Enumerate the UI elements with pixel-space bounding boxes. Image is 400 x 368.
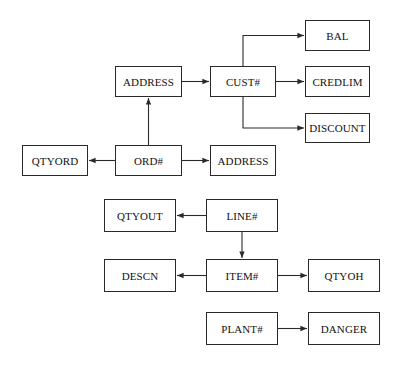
node-label: ORD# (134, 155, 163, 167)
node-label: ITEM# (226, 270, 259, 282)
node-item: ITEM# (206, 259, 278, 292)
node-label: QTYOUT (117, 210, 163, 222)
node-label: CREDLIM (312, 76, 362, 88)
node-label: ADDRESS (218, 155, 269, 167)
node-label: DISCOUNT (309, 122, 365, 134)
node-address-mid: ADDRESS (210, 145, 276, 176)
node-descn: DESCN (104, 259, 176, 292)
node-ord: ORD# (115, 145, 182, 176)
node-danger: DANGER (308, 312, 380, 345)
node-label: QTYORD (32, 155, 78, 167)
node-qtyoh: QTYOH (308, 259, 380, 292)
edge-cust-to-bal (243, 36, 304, 67)
node-label: QTYOH (325, 270, 364, 282)
node-label: PLANT# (221, 323, 263, 335)
node-label: BAL (326, 30, 348, 42)
node-discount: DISCOUNT (305, 113, 370, 143)
node-label: LINE# (226, 210, 257, 222)
node-line: LINE# (206, 199, 278, 232)
node-address-top: ADDRESS (115, 66, 182, 97)
node-label: CUST# (226, 76, 260, 88)
node-bal: BAL (305, 20, 370, 51)
edge-cust-to-discount (243, 97, 304, 128)
node-cust: CUST# (210, 66, 276, 97)
dependency-diagram: ADDRESS CUST# BAL CREDLIM DISCOUNT QTYOR… (0, 0, 400, 368)
node-qtyord: QTYORD (22, 145, 88, 176)
node-label: DANGER (321, 323, 367, 335)
node-qtyout: QTYOUT (104, 199, 176, 232)
node-label: ADDRESS (123, 76, 174, 88)
node-credlim: CREDLIM (305, 66, 370, 97)
node-plant: PLANT# (206, 312, 278, 345)
node-label: DESCN (122, 270, 159, 282)
